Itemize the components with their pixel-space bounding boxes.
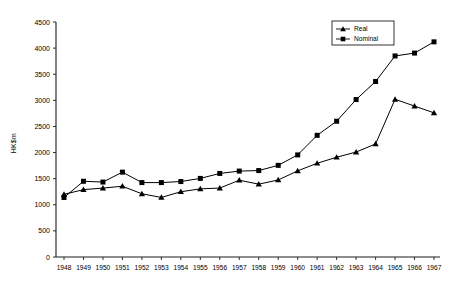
data-point-marker bbox=[373, 79, 378, 84]
x-tick-label: 1965 bbox=[388, 264, 403, 271]
data-point-marker bbox=[62, 195, 67, 200]
data-point-marker bbox=[432, 39, 437, 44]
x-tick-label: 1956 bbox=[212, 264, 227, 271]
y-tick-label: 0 bbox=[46, 254, 50, 261]
y-tick-label: 1500 bbox=[34, 175, 50, 182]
y-tick-label: 2500 bbox=[34, 123, 50, 130]
data-point-marker bbox=[100, 180, 105, 185]
data-point-marker bbox=[393, 53, 398, 58]
chart-legend: RealNominal bbox=[332, 21, 394, 45]
data-point-marker bbox=[217, 171, 222, 176]
line-chart: HK$m 05001000150020002500300035004000450… bbox=[0, 0, 452, 287]
x-tick-label: 1959 bbox=[271, 264, 286, 271]
x-tick-label: 1949 bbox=[76, 264, 91, 271]
x-tick-label: 1958 bbox=[251, 264, 266, 271]
data-point-marker bbox=[315, 133, 320, 138]
x-tick-label: 1954 bbox=[174, 264, 189, 271]
data-point-marker bbox=[412, 51, 417, 56]
y-tick-label: 4500 bbox=[34, 19, 50, 26]
y-tick-label: 4000 bbox=[34, 45, 50, 52]
data-point-marker bbox=[81, 179, 86, 184]
x-tick-label: 1950 bbox=[96, 264, 111, 271]
data-point-marker bbox=[275, 177, 281, 182]
x-tick-label: 1966 bbox=[407, 264, 422, 271]
series-real bbox=[61, 96, 437, 200]
legend-label-nominal: Nominal bbox=[354, 35, 379, 42]
data-point-marker bbox=[276, 163, 281, 168]
x-tick-label: 1961 bbox=[310, 264, 325, 271]
data-point-marker bbox=[236, 177, 242, 182]
x-tick-label: 1967 bbox=[427, 264, 442, 271]
x-tick-label: 1960 bbox=[290, 264, 305, 271]
data-point-marker bbox=[119, 183, 125, 188]
x-tick-label: 1955 bbox=[193, 264, 208, 271]
data-series-layer bbox=[61, 39, 437, 200]
data-point-marker bbox=[178, 179, 183, 184]
y-tick-label: 1000 bbox=[34, 201, 50, 208]
x-tick-label: 1948 bbox=[57, 264, 72, 271]
data-point-marker bbox=[295, 152, 300, 157]
x-tick-label: 1951 bbox=[115, 264, 130, 271]
chart-canvas: 050010001500200025003000350040004500 194… bbox=[0, 0, 452, 287]
data-point-marker bbox=[372, 141, 378, 146]
y-tick-label: 3500 bbox=[34, 71, 50, 78]
y-tick-label: 500 bbox=[38, 227, 50, 234]
x-tick-label: 1952 bbox=[135, 264, 150, 271]
x-tick-label: 1957 bbox=[232, 264, 247, 271]
data-point-marker bbox=[198, 176, 203, 181]
x-tick-label: 1953 bbox=[154, 264, 169, 271]
x-tick-label: 1964 bbox=[368, 264, 383, 271]
data-point-marker bbox=[354, 97, 359, 102]
series-nominal bbox=[62, 39, 437, 200]
data-point-marker bbox=[159, 180, 164, 185]
data-point-marker bbox=[237, 169, 242, 174]
y-tick-label: 2000 bbox=[34, 149, 50, 156]
data-point-marker bbox=[256, 168, 261, 173]
y-tick-label: 3000 bbox=[34, 97, 50, 104]
legend-label-real: Real bbox=[354, 25, 368, 32]
data-point-marker bbox=[341, 37, 346, 42]
data-point-marker bbox=[392, 96, 398, 101]
x-tick-label: 1962 bbox=[329, 264, 344, 271]
x-tick-label: 1963 bbox=[349, 264, 364, 271]
x-axis-ticks: 1948194919501951195219531954195519561957… bbox=[57, 257, 442, 271]
data-point-marker bbox=[120, 170, 125, 175]
data-point-marker bbox=[334, 119, 339, 124]
y-axis-ticks: 050010001500200025003000350040004500 bbox=[34, 19, 56, 261]
data-point-marker bbox=[139, 180, 144, 185]
